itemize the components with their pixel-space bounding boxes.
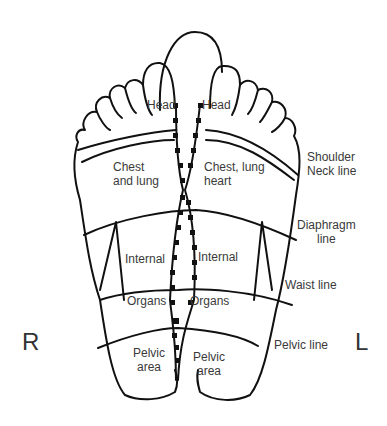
right-toe-lines: [97, 85, 152, 130]
spine-line-left: [178, 105, 200, 380]
right-chest-line-2: [82, 140, 174, 162]
left-internal-label: Internal: [198, 250, 238, 264]
right-chest-label: Chest and lung: [113, 160, 159, 188]
diaphragm-line-label: Diaphragm line: [297, 218, 356, 246]
pelvic-line-label: Pelvic line: [274, 338, 328, 352]
left-organs-label: Organs: [190, 294, 229, 308]
right-head-label: Head: [147, 98, 176, 112]
right-organs-label: Organs: [127, 294, 166, 308]
right-internal-spike: [100, 222, 124, 300]
left-pelvic-label: Pelvic area: [193, 350, 225, 378]
shoulder-neck-line-label: Shoulder Neck line: [307, 150, 356, 178]
left-internal-spike: [254, 222, 272, 300]
waist-line-label: Waist line: [285, 278, 337, 292]
right-side-label: R: [22, 328, 39, 356]
right-pelvic-label: Pelvic area: [133, 346, 165, 374]
left-toe-lines: [232, 85, 285, 132]
right-internal-label: Internal: [125, 252, 165, 266]
left-chest-label: Chest, lung heart: [204, 160, 265, 188]
left-side-label: L: [355, 328, 368, 356]
left-head-label: Head: [202, 98, 231, 112]
